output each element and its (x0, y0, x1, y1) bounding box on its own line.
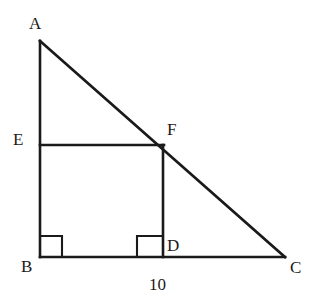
right-angle-mark-D (137, 236, 162, 257)
side-length-label-bc: 10 (149, 276, 166, 293)
vertex-label-f: F (167, 121, 176, 138)
vertex-label-c: C (290, 259, 301, 276)
right-angle-mark-B (41, 236, 62, 257)
vertex-label-d: D (167, 237, 179, 254)
vertex-label-b: B (21, 258, 32, 275)
geometry-figure: A E F B D C 10 (0, 0, 311, 302)
vertex-label-e: E (13, 131, 23, 148)
vertex-label-a: A (29, 15, 41, 32)
triangle-diagram-canvas (0, 0, 311, 302)
